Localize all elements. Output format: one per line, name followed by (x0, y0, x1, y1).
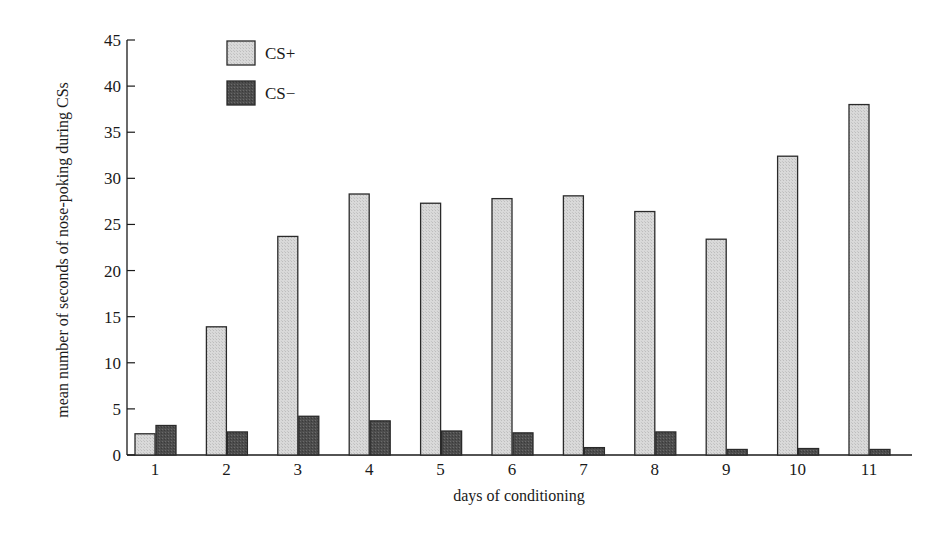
x-tick-label: 6 (508, 460, 517, 479)
bars (135, 105, 890, 455)
legend: CS+CS− (227, 41, 295, 105)
bar-cs-plus (706, 239, 726, 455)
x-tick-label: 2 (222, 460, 231, 479)
bar-cs-plus (349, 194, 369, 455)
x-tick-label: 4 (365, 460, 374, 479)
bar-group-day-9 (706, 239, 747, 455)
bar-cs-plus (635, 212, 655, 455)
y-axis-label: mean number of seconds of nose-poking du… (54, 82, 72, 418)
y-tick-label: 10 (104, 354, 121, 373)
bar-cs-minus (299, 416, 319, 455)
bar-group-day-2 (206, 327, 247, 455)
bar-cs-minus (799, 449, 819, 455)
bar-cs-minus (227, 432, 247, 455)
x-tick-label: 5 (436, 460, 445, 479)
x-axis-label: days of conditioning (453, 487, 585, 505)
x-tick-label: 10 (789, 460, 806, 479)
bar-cs-plus (849, 105, 869, 455)
x-tick-label: 1 (151, 460, 160, 479)
bar-cs-plus (206, 327, 226, 455)
y-tick-label: 20 (104, 262, 121, 281)
bar-cs-plus (421, 203, 441, 455)
legend-item: CS+ (227, 41, 295, 65)
bar-cs-plus (563, 196, 583, 455)
bar-group-day-8 (635, 212, 676, 455)
y-tick-label: 15 (104, 308, 121, 327)
bar-cs-minus (156, 425, 176, 455)
x-tick-label: 3 (294, 460, 303, 479)
bar-cs-minus (442, 431, 462, 455)
x-tick-label: 8 (651, 460, 660, 479)
bar-group-day-6 (492, 199, 533, 455)
bar-group-day-11 (849, 105, 890, 455)
y-tick-label: 40 (104, 77, 121, 96)
bar-cs-minus (727, 449, 747, 455)
bar-group-day-4 (349, 194, 390, 455)
bar-cs-minus (870, 449, 890, 455)
bar-cs-plus (778, 156, 798, 455)
legend-swatch (227, 81, 255, 105)
legend-item: CS− (227, 81, 295, 105)
bar-cs-minus (656, 432, 676, 455)
bar-cs-plus (492, 199, 512, 455)
bar-cs-minus (370, 421, 390, 455)
y-tick-label: 30 (104, 169, 121, 188)
bar-cs-minus (513, 433, 533, 455)
bar-group-day-7 (563, 196, 604, 455)
y-tick-label: 25 (104, 215, 121, 234)
y-tick-label: 0 (113, 446, 122, 465)
bar-cs-minus (584, 448, 604, 455)
bar-group-day-1 (135, 425, 176, 455)
legend-label: CS− (265, 84, 295, 103)
legend-swatch (227, 41, 255, 65)
y-axis: 051015202530354045 (104, 31, 135, 465)
y-tick-label: 5 (113, 400, 122, 419)
y-tick-label: 45 (104, 31, 121, 50)
x-axis: 1234567891011 (127, 455, 912, 479)
x-tick-label: 7 (579, 460, 588, 479)
bar-group-day-5 (421, 203, 462, 455)
bar-group-day-3 (278, 236, 319, 455)
x-tick-label: 9 (722, 460, 731, 479)
bar-chart: 051015202530354045 1234567891011 CS+CS− … (0, 0, 951, 538)
x-tick-label: 11 (861, 460, 877, 479)
legend-label: CS+ (265, 44, 295, 63)
y-tick-label: 35 (104, 123, 121, 142)
bar-cs-plus (278, 236, 298, 455)
bar-cs-plus (135, 434, 155, 455)
bar-group-day-10 (778, 156, 819, 455)
